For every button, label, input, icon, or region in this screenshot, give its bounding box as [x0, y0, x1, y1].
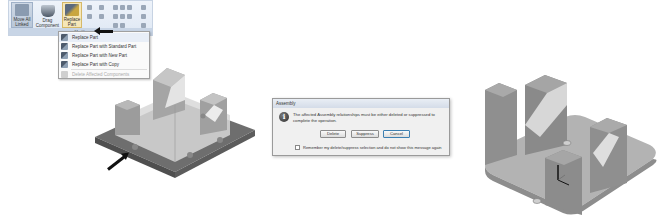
menu-item-label: Replace Part with Standard Part	[72, 44, 136, 49]
replace-standard-icon	[61, 43, 68, 50]
replace-part-button[interactable]: Replace Part	[62, 2, 82, 28]
tool-icon[interactable]	[99, 14, 104, 19]
v-block-model-icon	[485, 55, 665, 220]
drag-component-label: Drag Component	[34, 18, 61, 28]
tool-icon[interactable]	[120, 14, 125, 19]
replace-copy-icon	[61, 61, 68, 68]
info-icon: i	[279, 112, 289, 122]
tool-icon[interactable]	[127, 5, 132, 10]
remember-selection-checkbox[interactable]: Remember my delete/suppress selection an…	[295, 145, 442, 150]
move-all-linked-label: Move All Linked	[12, 17, 32, 27]
tool-icon[interactable]	[120, 5, 125, 10]
menu-item-label: Replace Part	[72, 35, 98, 40]
right-assembly-model[interactable]	[485, 55, 665, 220]
v-block-model-icon	[95, 60, 255, 200]
tool-icon[interactable]	[141, 5, 146, 10]
checkbox-box[interactable]	[295, 145, 300, 150]
replace-part-icon	[65, 4, 79, 16]
menu-item-replace-new[interactable]: Replace Part with New Part	[59, 51, 149, 60]
replace-new-icon	[61, 52, 68, 59]
checkbox-label: Remember my delete/suppress selection an…	[303, 145, 442, 150]
replace-part-label: Replace Part	[63, 17, 81, 27]
tool-icon[interactable]	[99, 5, 104, 10]
drag-component-button[interactable]: Drag Component	[34, 2, 61, 28]
replace-part-icon	[61, 34, 68, 41]
tool-icon[interactable]	[87, 14, 92, 19]
move-all-linked-button[interactable]: Move All Linked	[11, 2, 33, 28]
assembly-dialog: Assembly i The affected Assembly relatio…	[272, 98, 450, 156]
move-all-icon	[15, 4, 29, 16]
dialog-title: Assembly	[273, 99, 449, 108]
menu-item-replace-part[interactable]: Replace Part	[59, 33, 149, 42]
dialog-message: The affected Assembly relationships must…	[293, 112, 443, 123]
tool-icon[interactable]	[141, 14, 146, 19]
cancel-button[interactable]: Cancel	[383, 130, 410, 138]
callout-arrow-icon	[99, 30, 113, 33]
tool-icon[interactable]	[127, 14, 132, 19]
tool-icon[interactable]	[87, 5, 92, 10]
drag-component-icon	[41, 5, 55, 17]
left-assembly-model[interactable]	[95, 60, 255, 200]
delete-affected-icon	[61, 71, 68, 78]
delete-button[interactable]: Delete	[320, 130, 346, 138]
menu-item-replace-standard[interactable]: Replace Part with Standard Part	[59, 42, 149, 51]
menu-item-label: Replace Part with New Part	[72, 53, 127, 58]
tool-icon[interactable]	[113, 14, 118, 19]
tool-icon[interactable]	[113, 5, 118, 10]
suppress-button[interactable]: Suppress	[351, 130, 379, 138]
